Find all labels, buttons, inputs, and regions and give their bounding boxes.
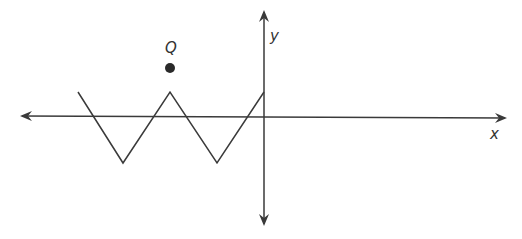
- zigzag-graph: [78, 92, 264, 163]
- x-axis-label: x: [489, 125, 499, 143]
- coordinate-plane: Q y x: [0, 0, 522, 239]
- point-q: [165, 63, 175, 73]
- x-axis-negative: [22, 116, 264, 117]
- x-axis: [264, 117, 505, 118]
- y-axis-label: y: [269, 27, 280, 45]
- point-q-label: Q: [165, 39, 177, 57]
